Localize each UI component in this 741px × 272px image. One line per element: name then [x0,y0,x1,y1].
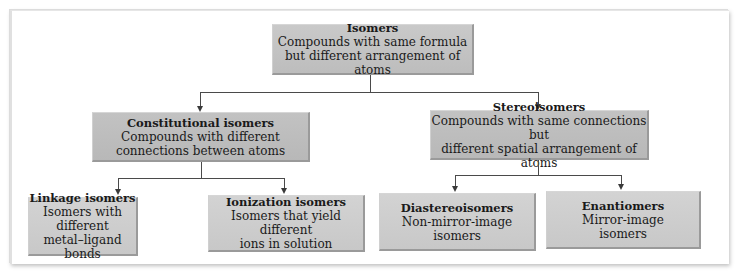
node-desc-line2: metal–ligand bonds [29,233,136,261]
node-desc-line1: Compounds with different [93,130,308,144]
node-desc-line2: connections between atoms [93,144,308,158]
node-ionization-isomers: Ionization isomers Isomers that yield di… [208,195,365,252]
node-desc-line1: Isomers that yield different [209,209,363,237]
node-desc-line1: Isomers with different [29,205,136,233]
arrow-down-icon [452,186,458,192]
arrow-down-icon [281,188,287,194]
node-desc-line1: Non-mirror-image [380,215,534,229]
node-desc-line2: isomers [547,227,699,241]
node-desc-line1: Mirror-image [547,213,699,227]
connector-root-stem [370,75,371,92]
connector-stereo-bar [455,175,622,176]
node-desc-line2: different spatial arrangement of atoms [431,142,647,170]
node-desc-line2: but different arrangement of atoms [273,49,472,77]
connector-root-bar [200,92,539,93]
node-title: Constitutional isomers [93,116,308,130]
node-title: Linkage isomers [29,191,136,205]
node-isomers: Isomers Compounds with same formula but … [272,24,474,75]
node-desc-line1: Compounds with same formula [273,35,472,49]
node-desc-line1: Compounds with same connections but [431,114,647,142]
connector-to-constitutional [200,92,201,107]
node-stereoisomers: Stereoisomers Compounds with same connec… [430,110,649,160]
arrow-down-icon [618,184,624,190]
node-title: Enantiomers [547,199,699,213]
connector-constitutional-bar [118,178,285,179]
node-title: Ionization isomers [209,195,363,209]
node-desc-line2: ions in solution [209,237,363,251]
node-linkage-isomers: Linkage isomers Isomers with different m… [28,197,138,256]
node-constitutional-isomers: Constitutional isomers Compounds with di… [92,112,310,162]
node-enantiomers: Enantiomers Mirror-image isomers [546,191,701,249]
node-desc-line2: isomers [380,229,534,243]
node-title: Isomers [273,21,472,35]
connector-stereo-stem [538,160,539,175]
node-title: Diastereoisomers [380,201,534,215]
connector-constitutional-stem [201,162,202,178]
node-title: Stereoisomers [431,100,647,114]
node-diastereoisomers: Diastereoisomers Non-mirror-image isomer… [379,193,536,251]
